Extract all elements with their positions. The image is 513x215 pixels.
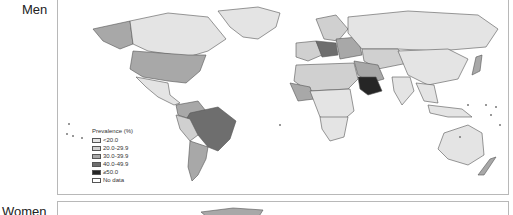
panel-label-women: Women xyxy=(2,204,47,215)
legend-item: No data xyxy=(92,176,133,184)
japan xyxy=(472,55,482,75)
new-zealand xyxy=(478,157,496,175)
australia xyxy=(438,125,484,165)
legend-item: <20.0 xyxy=(92,136,133,144)
map-frame-men: Prevalence (%) <20.0 20.0-29.9 30.0-39.9… xyxy=(57,0,509,195)
legend-item: 30.0-39.9 xyxy=(92,152,133,160)
russia xyxy=(348,11,498,51)
legend-item: 20.0-29.9 xyxy=(92,144,133,152)
alaska xyxy=(93,21,133,49)
southeast-asia xyxy=(416,83,438,103)
legend-swatch xyxy=(92,162,101,167)
legend-item: ≥50.0 xyxy=(92,168,133,176)
legend-swatch xyxy=(92,178,101,183)
map-legend: Prevalence (%) <20.0 20.0-29.9 30.0-39.9… xyxy=(92,127,133,184)
greenland xyxy=(218,7,280,39)
india xyxy=(392,77,414,105)
panel-label-men: Men xyxy=(22,2,47,17)
legend-title: Prevalence (%) xyxy=(92,127,133,135)
legend-swatch xyxy=(92,146,101,151)
scandinavia xyxy=(316,15,348,41)
world-map-women xyxy=(58,202,510,215)
legend-swatch xyxy=(92,138,101,143)
argentina xyxy=(188,141,208,181)
indonesia xyxy=(428,105,472,117)
southern-africa xyxy=(320,117,348,141)
legend-swatch xyxy=(92,170,101,175)
legend-item: 40.0-49.9 xyxy=(92,160,133,168)
map-frame-women xyxy=(57,201,509,215)
legend-swatch xyxy=(92,154,101,159)
canada xyxy=(130,13,226,57)
